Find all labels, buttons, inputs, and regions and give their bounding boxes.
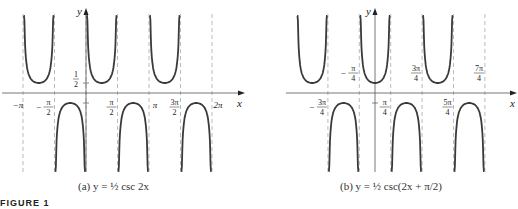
x-tick-label: 3π2 <box>170 98 180 117</box>
x-axis-label: x <box>236 97 242 109</box>
svg-text:−: − <box>36 102 41 112</box>
svg-text:−: − <box>341 68 346 78</box>
svg-text:2: 2 <box>47 108 51 117</box>
svg-text:4: 4 <box>351 74 355 83</box>
svg-text:2: 2 <box>173 108 177 117</box>
csc-branch-curve <box>297 16 327 83</box>
svg-text:4: 4 <box>477 74 481 83</box>
svg-text:π: π <box>351 64 355 73</box>
x-axis-arrow-icon <box>238 91 245 96</box>
x-tick-label: π2− <box>36 98 54 117</box>
csc-branch-curve <box>329 103 359 171</box>
svg-text:7π: 7π <box>475 64 483 73</box>
x-tick-label: 7π4 <box>474 64 484 83</box>
svg-text:5π: 5π <box>443 98 451 107</box>
x-axis-arrow-icon <box>510 91 517 96</box>
svg-text:4: 4 <box>446 108 450 117</box>
svg-text:1: 1 <box>74 70 78 79</box>
y-axis-label: y <box>76 5 82 17</box>
x-tick-label: 2π <box>213 100 223 110</box>
figure-label: FIGURE 1 <box>0 198 50 208</box>
panel-b-plot: yx3π4−π4−π43π45π47π4 <box>286 5 517 172</box>
figure-canvas: yx−ππ2−π2π3π22π12 yx3π4−π4−π43π45π47π4 <box>0 0 518 209</box>
csc-branch-curve <box>423 16 453 83</box>
svg-text:2: 2 <box>74 80 78 89</box>
csc-branch-curve <box>55 103 85 171</box>
csc-branch-curve <box>454 103 484 171</box>
csc-branch-curve <box>24 16 54 83</box>
x-tick-label: π4− <box>341 64 359 83</box>
svg-text:4: 4 <box>320 108 324 117</box>
x-tick-label: −π <box>13 100 24 110</box>
y-axis-arrow-icon <box>84 8 89 15</box>
y-axis-arrow-icon <box>373 8 378 15</box>
csc-branch-curve <box>150 16 180 83</box>
y-tick-label: 12 <box>73 70 79 89</box>
y-axis-label: y <box>365 5 371 17</box>
svg-text:2π: 2π <box>213 100 223 110</box>
csc-branch-curve <box>118 103 148 171</box>
svg-text:2: 2 <box>110 108 114 117</box>
svg-text:3π: 3π <box>412 64 420 73</box>
svg-text:−: − <box>309 102 314 112</box>
csc-branch-curve <box>391 103 421 171</box>
svg-text:π: π <box>383 98 387 107</box>
svg-text:4: 4 <box>414 74 418 83</box>
x-tick-label: 3π4 <box>411 64 421 83</box>
svg-text:3π: 3π <box>170 98 178 107</box>
x-tick-label: π <box>153 100 158 110</box>
csc-branch-curve <box>181 103 211 171</box>
svg-text:π: π <box>109 98 113 107</box>
x-tick-label: π4 <box>380 98 390 117</box>
x-tick-label: 5π4 <box>443 98 453 117</box>
svg-text:π: π <box>153 100 158 110</box>
csc-branch-curve <box>87 16 117 83</box>
svg-text:3π: 3π <box>318 98 326 107</box>
svg-text:−π: −π <box>13 100 24 110</box>
panel-b-caption: (b) y = ½ csc(2x + π/2) <box>340 180 442 192</box>
x-tick-label: π2 <box>107 98 117 117</box>
svg-text:4: 4 <box>383 108 387 117</box>
x-tick-label: 3π4− <box>309 98 327 117</box>
panel-a-plot: yx−ππ2−π2π3π22π12 <box>2 5 245 172</box>
panel-a-caption: (a) y = ½ csc 2x <box>78 180 149 192</box>
x-axis-label: x <box>509 97 515 109</box>
svg-text:π: π <box>46 98 50 107</box>
